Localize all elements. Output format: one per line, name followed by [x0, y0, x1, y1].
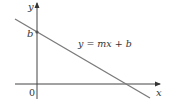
- equation-label: y = mx + b: [77, 38, 132, 49]
- x-axis-label: x: [156, 87, 162, 98]
- y-intercept-point: [35, 30, 38, 33]
- y-axis-label: y: [27, 1, 34, 12]
- line-y-equals-mx-plus-b: [15, 19, 150, 98]
- intercept-label: b: [27, 28, 33, 39]
- origin-label: 0: [29, 87, 35, 98]
- slope-intercept-diagram: y b y = mx + b 0 x: [0, 0, 175, 109]
